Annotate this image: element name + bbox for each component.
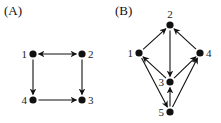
node-4-label: 4 [22, 94, 28, 106]
node-2-label: 2 [88, 48, 94, 60]
node-4 [196, 49, 203, 56]
node-3-label: 3 [88, 94, 94, 106]
edge-4-to-2 [174, 29, 196, 49]
node-2 [78, 50, 85, 57]
node-5-label: 5 [159, 106, 165, 118]
node-5 [166, 108, 173, 115]
node-2 [166, 21, 173, 28]
graph-a: 1234 [22, 48, 95, 106]
node-4-label: 4 [206, 47, 212, 59]
node-2-label: 2 [167, 8, 173, 20]
node-4 [29, 96, 36, 103]
edge-5-to-4 [173, 58, 198, 107]
diagram-canvas: (A) (B) 1234 12345 [0, 0, 221, 123]
panel-a-label: (A) [4, 3, 22, 18]
node-1 [135, 49, 142, 56]
node-3-label: 3 [159, 76, 165, 88]
edge-1-to-2 [143, 29, 166, 50]
node-3 [166, 78, 173, 85]
node-1 [29, 50, 36, 57]
graph-b: 12345 [128, 8, 213, 118]
node-1-label: 1 [128, 47, 134, 59]
node-1-label: 1 [22, 48, 28, 60]
panel-b-label: (B) [115, 3, 132, 18]
node-3 [78, 96, 85, 103]
